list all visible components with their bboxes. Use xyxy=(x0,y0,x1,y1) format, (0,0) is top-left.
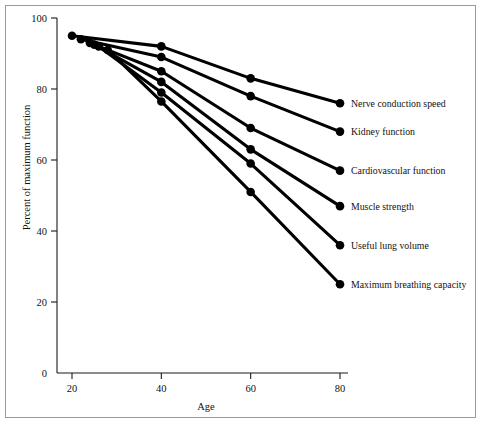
x-axis-title: Age xyxy=(197,401,215,412)
series-point-marker xyxy=(246,74,255,83)
series-point-marker xyxy=(246,124,255,133)
series-point-marker xyxy=(157,53,166,62)
series-point-marker xyxy=(157,42,166,51)
series-point-marker xyxy=(246,188,255,197)
series-point-marker xyxy=(157,67,166,76)
y-tick-label: 60 xyxy=(37,155,48,166)
series-point-marker xyxy=(336,202,345,211)
series-point-marker xyxy=(95,42,104,51)
series-point-marker xyxy=(103,46,112,55)
series-point-marker xyxy=(157,97,166,106)
series-end-label: Cardiovascular function xyxy=(351,165,446,176)
series-end-label: Nerve conduction speed xyxy=(351,98,446,109)
series-point-marker xyxy=(246,145,255,154)
series-point-marker xyxy=(336,241,345,250)
series-point-marker xyxy=(77,35,86,44)
x-tick-label: 40 xyxy=(156,383,167,394)
y-tick-label: 80 xyxy=(37,84,48,95)
x-axis-ticks: 20406080 xyxy=(67,373,346,394)
y-tick-label: 20 xyxy=(37,297,48,308)
y-axis-ticks: 020406080100 xyxy=(31,13,57,379)
series-point-marker xyxy=(336,127,345,136)
series-point-marker xyxy=(336,166,345,175)
series-point-marker xyxy=(336,99,345,108)
y-axis-title: Percent of maximum function xyxy=(21,104,32,230)
y-tick-label: 40 xyxy=(37,226,48,237)
series-end-label: Maximum breathing capacity xyxy=(351,279,466,290)
x-tick-label: 60 xyxy=(245,383,256,394)
series-lines-group xyxy=(72,36,340,285)
series-point-marker xyxy=(68,31,77,40)
series-point-marker xyxy=(336,280,345,289)
chart-plot-area: 020406080100 20406080 Nerve conduction s… xyxy=(0,0,483,425)
series-point-marker xyxy=(157,78,166,87)
x-tick-label: 20 xyxy=(67,383,78,394)
series-point-marker xyxy=(157,88,166,97)
series-markers-group xyxy=(68,31,345,288)
chart-figure: 020406080100 20406080 Nerve conduction s… xyxy=(0,0,483,425)
series-end-label: Kidney function xyxy=(351,126,415,137)
x-tick-label: 80 xyxy=(335,383,346,394)
series-point-marker xyxy=(246,92,255,101)
axes-group xyxy=(57,18,348,373)
y-tick-label: 0 xyxy=(42,368,47,379)
series-end-label: Useful lung volume xyxy=(351,240,429,251)
series-end-label: Muscle strength xyxy=(351,201,414,212)
y-tick-label: 100 xyxy=(31,13,47,24)
series-point-marker xyxy=(246,159,255,168)
series-labels-group: Nerve conduction speedKidney functionCar… xyxy=(351,98,466,290)
